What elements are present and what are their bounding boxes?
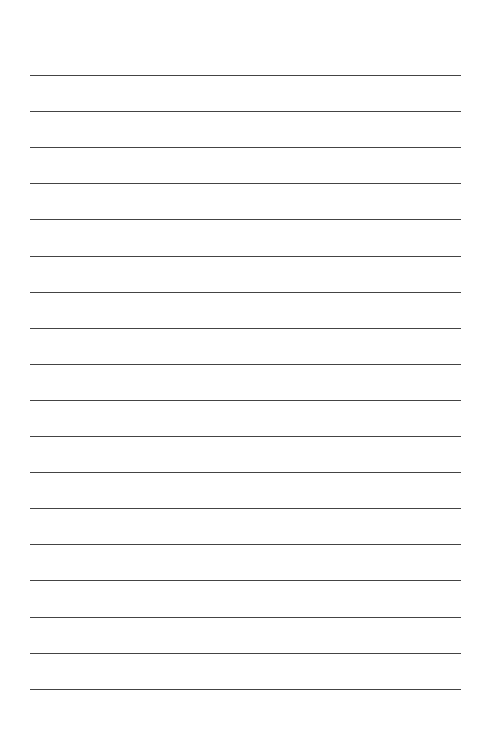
ruled-line	[30, 256, 461, 257]
ruled-line	[30, 436, 461, 437]
ruled-line	[30, 653, 461, 654]
ruled-line	[30, 689, 461, 690]
ruled-line	[30, 508, 461, 509]
ruled-line	[30, 364, 461, 365]
ruled-line	[30, 472, 461, 473]
ruled-line	[30, 400, 461, 401]
ruled-line	[30, 328, 461, 329]
ruled-line	[30, 147, 461, 148]
ruled-line	[30, 75, 461, 76]
lined-page	[0, 0, 477, 730]
ruled-line	[30, 617, 461, 618]
ruled-line	[30, 544, 461, 545]
ruled-line	[30, 183, 461, 184]
ruled-line	[30, 219, 461, 220]
ruled-line	[30, 580, 461, 581]
ruled-line	[30, 111, 461, 112]
ruled-line	[30, 292, 461, 293]
